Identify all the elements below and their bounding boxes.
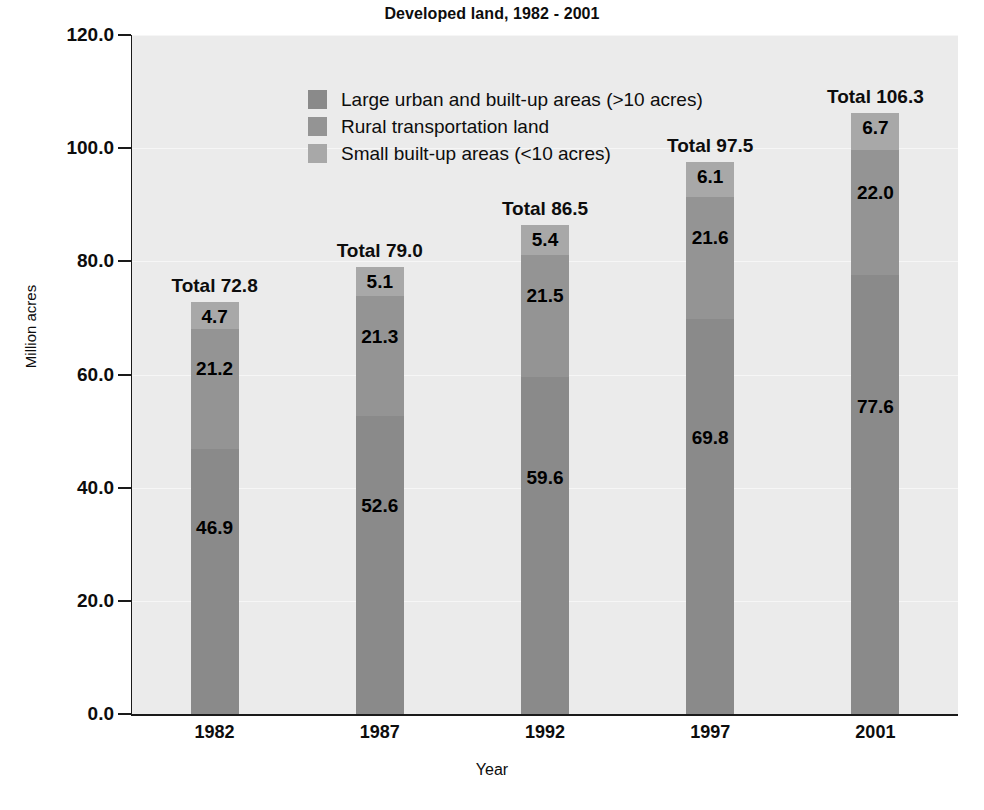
legend-swatch-large-urban (308, 90, 327, 109)
y-tick-mark (118, 713, 131, 715)
bar-segment-value-label: 21.5 (521, 285, 569, 307)
legend-label-small-built-up: Small built-up areas (<10 acres) (341, 143, 611, 165)
y-tick-label: 40.0 (4, 477, 114, 499)
legend-item-small-built-up[interactable]: Small built-up areas (<10 acres) (308, 140, 703, 167)
bar-segment[interactable] (521, 377, 569, 714)
bar-segment-value-label: 5.1 (356, 271, 404, 293)
y-tick-label: 0.0 (4, 703, 114, 725)
legend-label-rural-transportation: Rural transportation land (341, 116, 549, 138)
bar-segment[interactable] (356, 416, 404, 714)
y-tick-label: 20.0 (4, 590, 114, 612)
bar-segment[interactable] (686, 197, 734, 319)
x-tick-label: 1992 (485, 722, 605, 743)
bar-group[interactable]: 77.622.06.7Total 106.3 (851, 35, 899, 714)
y-tick-label: 80.0 (4, 250, 114, 272)
y-tick-label: 60.0 (4, 364, 114, 386)
y-axis-title: Million acres (22, 237, 39, 417)
bar-segment-value-label: 5.4 (521, 229, 569, 251)
bar-segment[interactable] (356, 296, 404, 417)
bar-total-label: Total 106.3 (775, 86, 975, 108)
bar-segment-value-label: 6.1 (686, 166, 734, 188)
y-tick-mark (118, 600, 131, 602)
x-tick-label: 1987 (320, 722, 440, 743)
bar-segment-value-label: 46.9 (191, 517, 239, 539)
bar-segment-value-label: 69.8 (686, 427, 734, 449)
bar-segment[interactable] (521, 255, 569, 377)
legend-label-large-urban: Large urban and built-up areas (>10 acre… (341, 89, 703, 111)
bar-segment[interactable] (851, 150, 899, 274)
legend-swatch-rural-transportation (308, 117, 327, 136)
legend-item-rural-transportation[interactable]: Rural transportation land (308, 113, 703, 140)
x-tick-label: 1997 (650, 722, 770, 743)
y-tick-mark (118, 260, 131, 262)
bar-segment[interactable] (191, 329, 239, 449)
x-tick-label: 1982 (155, 722, 275, 743)
bar-segment-value-label: 21.2 (191, 358, 239, 380)
y-tick-label: 120.0 (4, 24, 114, 46)
x-tick-label: 2001 (815, 722, 935, 743)
x-axis-title: Year (0, 761, 984, 779)
bar-segment[interactable] (851, 275, 899, 714)
bar-segment-value-label: 4.7 (191, 306, 239, 328)
y-tick-mark (118, 147, 131, 149)
bar-segment-value-label: 22.0 (851, 182, 899, 204)
bar-group[interactable]: 46.921.24.7Total 72.8 (191, 35, 239, 714)
bar-segment-value-label: 52.6 (356, 495, 404, 517)
bar-segment-value-label: 77.6 (851, 396, 899, 418)
legend-swatch-small-built-up (308, 144, 327, 163)
y-tick-mark (118, 34, 131, 36)
y-tick-label: 100.0 (4, 137, 114, 159)
bar-segment-value-label: 6.7 (851, 117, 899, 139)
legend: Large urban and built-up areas (>10 acre… (308, 86, 703, 167)
bar-segment-value-label: 21.6 (686, 227, 734, 249)
bar-total-label: Total 72.8 (115, 275, 315, 297)
bar-total-label: Total 79.0 (280, 240, 480, 262)
bar-segment-value-label: 59.6 (521, 467, 569, 489)
y-tick-mark (118, 374, 131, 376)
plot-area: 46.921.24.7Total 72.852.621.35.1Total 79… (132, 35, 958, 716)
stacked-bar-chart: Developed land, 1982 - 2001 46.921.24.7T… (0, 0, 984, 810)
y-tick-mark (118, 487, 131, 489)
bar-segment[interactable] (686, 319, 734, 714)
bar-segment-value-label: 21.3 (356, 326, 404, 348)
bar-segment[interactable] (191, 449, 239, 714)
bar-total-label: Total 86.5 (445, 198, 645, 220)
chart-title: Developed land, 1982 - 2001 (0, 5, 984, 23)
legend-item-large-urban[interactable]: Large urban and built-up areas (>10 acre… (308, 86, 703, 113)
